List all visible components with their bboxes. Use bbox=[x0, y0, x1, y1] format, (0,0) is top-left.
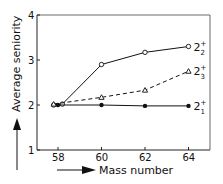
series-label-sup: + bbox=[201, 64, 207, 72]
series-label: 2 bbox=[194, 65, 201, 78]
data-point-marker bbox=[186, 104, 190, 108]
x-axis-label: Mass number bbox=[99, 164, 174, 177]
data-point-marker bbox=[99, 103, 103, 107]
series-label-sub: 2 bbox=[201, 49, 205, 57]
data-point-marker bbox=[99, 62, 103, 66]
data-point-marker bbox=[186, 44, 190, 48]
y-tick-label: 2 bbox=[28, 100, 34, 111]
y-tick-label: 1 bbox=[28, 145, 34, 156]
y-axis-arrow bbox=[13, 118, 21, 170]
data-point-marker bbox=[186, 69, 191, 74]
series-label-sub: 3 bbox=[201, 73, 205, 81]
series-label-sup: + bbox=[201, 99, 207, 107]
data-point-marker bbox=[143, 104, 147, 108]
x-axis-ticks: 58606264 bbox=[52, 147, 195, 163]
series-label-sub: 1 bbox=[201, 108, 205, 116]
x-tick-label: 62 bbox=[139, 152, 152, 163]
y-tick-label: 3 bbox=[28, 55, 34, 66]
x-tick-label: 60 bbox=[96, 152, 109, 163]
x-axis-arrow bbox=[57, 166, 96, 174]
x-tick-label: 64 bbox=[183, 152, 196, 163]
series-label-sup: + bbox=[201, 40, 207, 48]
y-axis-label: Average seniority bbox=[10, 15, 23, 112]
plot-frame bbox=[37, 15, 210, 150]
y-axis-ticks: 1234 bbox=[28, 10, 40, 156]
x-tick-label: 58 bbox=[52, 152, 65, 163]
data-series: 2+22+32+1 bbox=[51, 40, 206, 116]
series-1: 2+1 bbox=[56, 99, 207, 116]
series-label: 2 bbox=[194, 41, 201, 54]
data-point-marker bbox=[143, 50, 147, 54]
series-3: 2+3 bbox=[51, 64, 206, 106]
y-tick-label: 4 bbox=[28, 10, 34, 21]
svg-text:Average seniority: Average seniority bbox=[10, 15, 23, 112]
series-label: 2 bbox=[194, 100, 201, 113]
seniority-chart: 1234 58606264 2+22+32+1 Average seniorit… bbox=[0, 0, 223, 184]
data-point-marker bbox=[56, 103, 60, 107]
